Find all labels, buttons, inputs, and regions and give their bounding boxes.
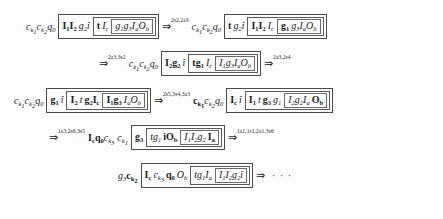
token-i-3: î <box>238 95 243 106</box>
line-3-config-outer-box: g1î I2tg2Ic I1g3IaOb <box>46 88 151 113</box>
line-1-box-level-2: g1g3IaOb <box>111 19 153 34</box>
line-1-right-box-level-2: g1g3IaOb <box>277 19 321 34</box>
line-1-left-context: ck1ck2q0 <box>26 21 58 32</box>
token-g1-3: g1 <box>272 95 282 106</box>
line-4-left-context-2: ck1 <box>117 132 131 143</box>
token-I1I2g2i: I1I2g2î <box>218 170 244 181</box>
token-g2i-2: g2î <box>232 21 245 32</box>
line-3-arrow-label: 2s5,3s4,3a3 <box>163 91 190 97</box>
line-1-right-outer-box: tg2î I1I2Ic g1g3IaOb <box>224 14 327 39</box>
line-1-right-context: ck1ck2q0 <box>192 21 224 32</box>
arrow-glyph-5: ⇒ <box>49 131 58 144</box>
line-5-box-level-2: I1I2g2î <box>215 168 247 183</box>
token-I1I2g2: I1I2g2 <box>183 132 206 143</box>
line-2-box-level-1: tg1Ic I1g3IaOb <box>188 54 258 73</box>
line-1-arrow: ⇒2s2,2a3 <box>159 20 192 33</box>
line-1-config-outer-box: I1I2g2î tIc g1g3IaOb <box>58 14 159 39</box>
token-g3IaOb: g3IaOb <box>290 21 317 32</box>
line-5-trailing-arrow: ⇒ <box>253 169 268 182</box>
token-g2i: g2î <box>78 21 91 32</box>
line-4-arrow-label: 1a3,2s6,3s5 <box>58 128 85 134</box>
token-tg1Ia: tg1Ia <box>193 170 213 181</box>
token-i: î <box>182 58 187 69</box>
line-4-trailing-arrow-label: 1a1,1s1,2a1,3s6 <box>237 128 274 134</box>
derivation-line-4: ⇒1a3,2s6,3s5 Icq0ck3 ck1 g3 tg1iOb I1I2g… <box>46 125 277 150</box>
token-ck3: ck3 <box>152 170 165 181</box>
line-3-right-outer-box: Icî I1tg3g1 I2g2IaOb <box>226 88 333 113</box>
line-5-config-outer-box: Icck3q0Ob tg1Ia I1I2g2î <box>141 163 254 188</box>
token-g3g1: g3 <box>262 95 272 106</box>
line-2-arrow-label: 2a3,3s2 <box>108 54 126 60</box>
line-3-arrow: ⇒2s5,3s4,3a3 <box>151 94 193 107</box>
token-Ob-2: Ob <box>176 170 188 181</box>
line-3-right-box-level-2: I2g2IaOb <box>284 93 327 108</box>
line-2-left-context: ck1ck2q0 <box>129 58 161 69</box>
token-q0: q0 <box>165 170 176 181</box>
derivation-line-3: ck1ck2q0 g1î I2tg2Ic I1g3IaOb ⇒2s5,3s4,3… <box>14 88 333 113</box>
arrow-glyph-6: ⇒ <box>228 131 237 144</box>
token-Ia: Ia <box>207 132 216 143</box>
token-IaOb: IaOb <box>123 95 142 106</box>
token-tg1: tg1 <box>149 132 162 143</box>
line-3-left-context: ck1ck2q0 <box>14 95 46 106</box>
derivation-line-1: ck1ck2q0 I1I2g2î tIc g1g3IaOb ⇒2s2,2a3 c… <box>26 14 327 39</box>
token-g2I c: g2Ic <box>83 95 100 106</box>
line-5-left-context: g3ck2 <box>118 170 141 181</box>
token-I2g2: I2g2 <box>164 58 181 69</box>
line-1-arrow-label: 2s2,2a3 <box>171 17 189 23</box>
line-2-arrow: ⇒2a3,3s2 <box>96 57 129 70</box>
token-g1-2: g1 <box>49 95 59 106</box>
token-g3-2: g3 <box>134 132 144 143</box>
token-Ic-2: Ic <box>267 21 275 32</box>
line-2-box-level-2: I1g3IaOb <box>215 56 255 71</box>
token-I1: I1 <box>248 95 257 106</box>
line-1-right-box-level-1: I1I2Ic g1g3IaOb <box>247 17 323 36</box>
arrow-glyph-4: ⇒ <box>154 94 163 107</box>
line-5-box-level-1: tg1Ia I1I2g2î <box>190 166 250 185</box>
token-Ob: Ob <box>311 95 324 106</box>
derivation-line-2: ⇒2a3,3s2 ck1ck2q0 I2g2î tg1Ic I1g3IaOb ⇒… <box>96 51 294 76</box>
token-Ic-4: Ic <box>229 95 238 106</box>
token-g1: g1 <box>280 21 290 32</box>
line-3-right-context: ck1ck2q0 <box>193 95 226 106</box>
token-I1I2-2: I1I2 <box>250 21 266 32</box>
token-I2: I2 <box>69 95 78 106</box>
line-2-trailing-arrow: ⇒2a3,2s4 <box>261 57 294 70</box>
token-Ic-5: Ic <box>144 170 153 181</box>
line-3-box-level-2: I1g3IaOb <box>102 93 144 108</box>
line-4-box-level-2: I1I2g2Ia <box>180 130 219 145</box>
line-4-left-context: Icq0ck3 <box>88 132 117 143</box>
line-4-box-level-1: tg1iOb I1I2g2Ia <box>146 128 222 147</box>
arrow-glyph-2: ⇒ <box>99 57 108 70</box>
token-tg1: tg1 <box>191 58 205 69</box>
derivation-line-5: g3ck2 Icck3q0Ob tg1Ia I1I2g2î ⇒ · · · <box>118 163 292 188</box>
arrow-glyph: ⇒ <box>162 20 171 33</box>
line-4-arrow: ⇒1a3,2s6,3s5 <box>46 131 88 144</box>
token-I1I2: I1I2 <box>61 21 77 32</box>
token-Ic: Ic <box>101 21 109 32</box>
token-Ic-3: Ic <box>205 58 213 69</box>
line-3-right-box-level-1: I1tg3g1 I2g2IaOb <box>245 91 330 110</box>
arrow-glyph-7: ⇒ <box>256 169 265 182</box>
line-3-box-level-1: I2tg2Ic I1g3IaOb <box>66 91 147 110</box>
line-5-ellipsis: · · · <box>268 170 292 181</box>
token-I2g2IaOb: I2g2Ia <box>287 95 310 106</box>
line-1-box-level-1: tIc g1g3IaOb <box>93 17 156 36</box>
arrow-glyph-3: ⇒ <box>264 57 273 70</box>
derivation-figure: ck1ck2q0 I1I2g2î tIc g1g3IaOb ⇒2s2,2a3 c… <box>0 0 443 219</box>
line-4-config-outer-box: g3 tg1iOb I1I2g2Ia <box>131 125 225 150</box>
line-2-config-outer-box: I2g2î tg1Ic I1g3IaOb <box>161 51 261 76</box>
line-4-trailing-arrow: ⇒1a1,1s1,2a1,3s6 <box>225 131 277 144</box>
line-2-trailing-arrow-label: 2a3,2s4 <box>273 54 291 60</box>
token-i-2: î <box>60 95 65 106</box>
token-I1g3IaOb: I1g3IaOb <box>218 58 252 69</box>
token-g1g3IaOb: g1g3IaOb <box>114 21 150 32</box>
token-iOb: iOb <box>162 132 178 143</box>
token-I1g3: I1g3 <box>105 95 122 106</box>
